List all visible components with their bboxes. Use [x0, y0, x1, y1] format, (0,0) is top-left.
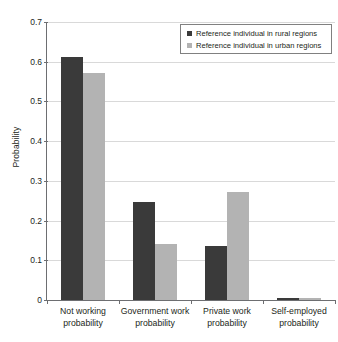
bar: [61, 57, 83, 300]
x-category-label-line: probability: [115, 318, 195, 330]
x-tick-mark: [335, 300, 336, 304]
legend-swatch-icon: [187, 31, 192, 36]
legend-label: Reference individual in rural regions: [196, 29, 317, 38]
legend-item: Reference individual in rural regions: [185, 28, 327, 39]
bar: [277, 298, 299, 300]
x-category-label: Private workprobability: [187, 306, 267, 329]
x-tick-mark: [119, 300, 120, 304]
bar-chart: Probability 00.10.20.30.40.50.60.7 Refer…: [0, 0, 338, 342]
y-tick-label: 0.7: [30, 17, 42, 27]
x-tick-mark: [47, 300, 48, 304]
bar: [205, 246, 227, 300]
bar: [133, 202, 155, 300]
x-category-label-line: probability: [187, 318, 267, 330]
x-category-label-line: Self-employed: [259, 306, 338, 318]
y-tick-label: 0.3: [30, 176, 42, 186]
bar-group: [263, 22, 335, 300]
y-tick-label: 0: [37, 295, 42, 305]
x-tick-mark: [191, 300, 192, 304]
bar-group: [191, 22, 263, 300]
x-category-label-line: probability: [43, 318, 123, 330]
bar: [83, 73, 105, 300]
x-category-label-line: probability: [259, 318, 338, 330]
y-tick-label: 0.5: [30, 96, 42, 106]
legend-swatch-icon: [187, 43, 192, 48]
bar-group: [47, 22, 119, 300]
x-category-label: Government workprobability: [115, 306, 195, 329]
y-tick-label: 0.4: [30, 136, 42, 146]
y-tick-label: 0.2: [30, 216, 42, 226]
chart-legend: Reference individual in rural regionsRef…: [180, 24, 332, 54]
x-category-label: Not workingprobability: [43, 306, 123, 329]
bar: [155, 244, 177, 300]
bars-layer: [47, 22, 335, 300]
x-category-label: Self-employedprobability: [259, 306, 338, 329]
x-tick-mark: [263, 300, 264, 304]
legend-item: Reference individual in urban regions: [185, 40, 327, 51]
bar-group: [119, 22, 191, 300]
y-axis-title: Probability: [11, 97, 21, 197]
bar: [299, 298, 321, 300]
plot-area: 00.10.20.30.40.50.60.7 Reference individ…: [47, 22, 335, 300]
legend-label: Reference individual in urban regions: [196, 41, 321, 50]
y-tick-label: 0.6: [30, 57, 42, 67]
x-category-label-line: Private work: [187, 306, 267, 318]
bar: [227, 192, 249, 300]
x-category-label-line: Not working: [43, 306, 123, 318]
x-category-label-line: Government work: [115, 306, 195, 318]
y-tick-label: 0.1: [30, 255, 42, 265]
